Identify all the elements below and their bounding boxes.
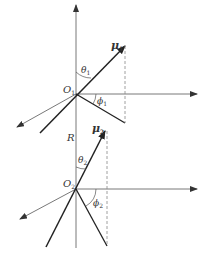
O2-label: O2 — [63, 178, 75, 190]
mu2-label: μ2 — [92, 122, 104, 135]
mu1-vector — [40, 46, 125, 133]
magnetic-dipole-diagram: μ1 θ1 O1 ϕ1 μ2 R θ2 O2 ϕ2 — [0, 0, 205, 260]
theta2-label: θ2 — [78, 155, 87, 166]
phi1-label: ϕ1 — [97, 96, 107, 107]
phi2-label: ϕ2 — [93, 198, 103, 209]
O1-label: O1 — [63, 84, 75, 96]
projection-line-2 — [76, 189, 107, 246]
R-label: R — [66, 132, 75, 143]
theta1-label: θ1 — [81, 65, 90, 76]
phi1-arc — [93, 94, 96, 104]
mu1-label: μ1 — [111, 39, 123, 52]
oblique-axis-1 — [17, 94, 76, 127]
theta2-arc — [76, 167, 86, 169]
